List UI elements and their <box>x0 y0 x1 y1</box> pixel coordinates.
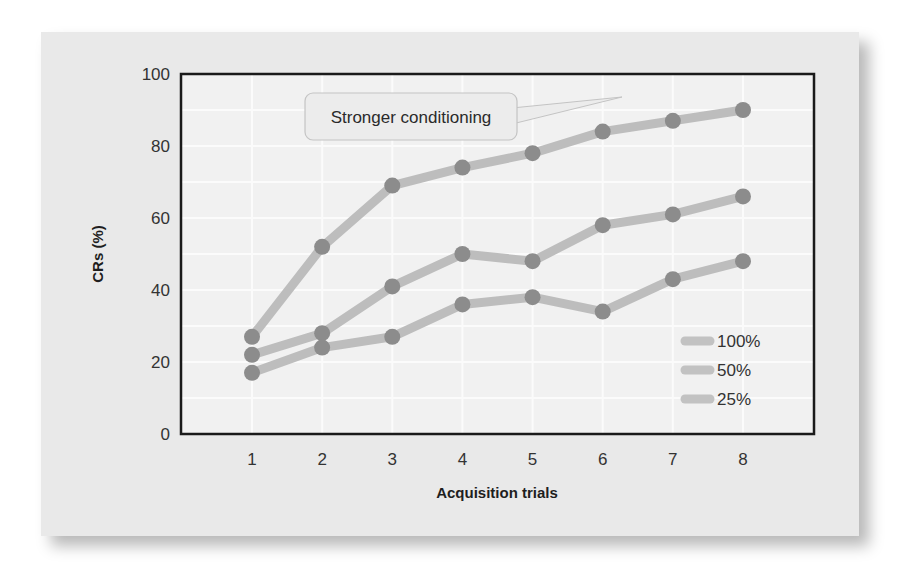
x-tick-label: 2 <box>317 450 326 469</box>
x-axis-title: Acquisition trials <box>436 484 558 501</box>
line-chart: 020406080100 12345678 Acquisition trials… <box>0 0 915 576</box>
x-tick-label: 6 <box>598 450 607 469</box>
data-point-marker <box>665 113 681 129</box>
legend-label: 50% <box>717 361 751 380</box>
y-tick-label: 20 <box>151 353 170 372</box>
y-tick-label: 40 <box>151 281 170 300</box>
data-point-marker <box>595 217 611 233</box>
legend: 100%50%25% <box>685 332 760 409</box>
data-point-marker <box>525 145 541 161</box>
data-point-marker <box>735 102 751 118</box>
data-point-marker <box>735 253 751 269</box>
y-tick-label: 0 <box>161 425 170 444</box>
y-axis-title: CRs (%) <box>89 225 106 283</box>
data-point-marker <box>384 278 400 294</box>
data-point-marker <box>314 239 330 255</box>
x-tick-label: 7 <box>668 450 677 469</box>
data-point-marker <box>454 296 470 312</box>
data-point-marker <box>735 188 751 204</box>
data-point-marker <box>454 246 470 262</box>
legend-label: 25% <box>717 390 751 409</box>
y-axis-ticks: 020406080100 <box>142 65 170 444</box>
data-point-marker <box>314 325 330 341</box>
data-point-marker <box>525 289 541 305</box>
data-point-marker <box>244 365 260 381</box>
data-point-marker <box>454 160 470 176</box>
x-tick-label: 5 <box>528 450 537 469</box>
data-point-marker <box>244 329 260 345</box>
x-tick-label: 8 <box>738 450 747 469</box>
data-point-marker <box>595 124 611 140</box>
data-point-marker <box>244 347 260 363</box>
x-tick-label: 3 <box>388 450 397 469</box>
data-point-marker <box>665 206 681 222</box>
data-point-marker <box>525 253 541 269</box>
data-point-marker <box>314 340 330 356</box>
callout-text: Stronger conditioning <box>331 108 492 127</box>
y-tick-label: 100 <box>142 65 170 84</box>
x-tick-label: 1 <box>247 450 256 469</box>
data-point-marker <box>384 178 400 194</box>
data-point-marker <box>665 271 681 287</box>
legend-label: 100% <box>717 332 760 351</box>
y-tick-label: 80 <box>151 137 170 156</box>
x-tick-label: 4 <box>458 450 467 469</box>
x-axis-ticks: 12345678 <box>247 450 747 469</box>
data-point-marker <box>595 304 611 320</box>
data-point-marker <box>384 329 400 345</box>
y-tick-label: 60 <box>151 209 170 228</box>
